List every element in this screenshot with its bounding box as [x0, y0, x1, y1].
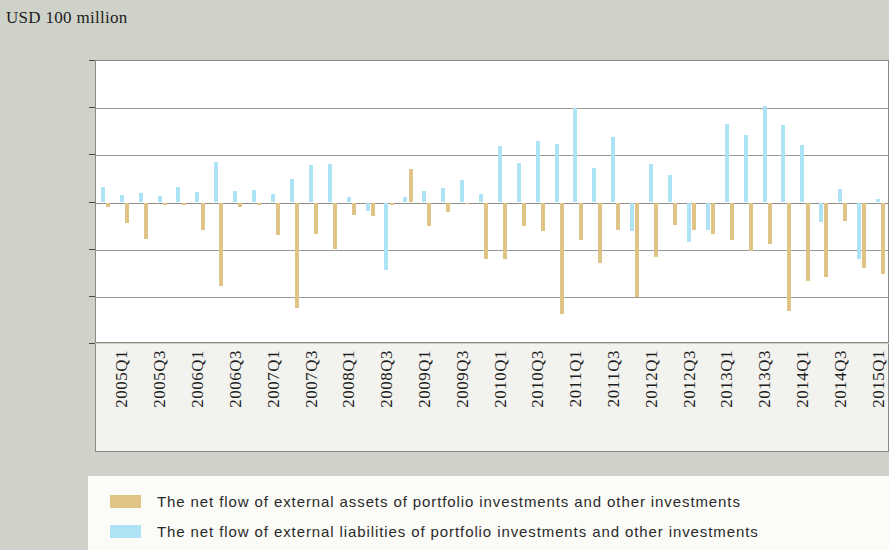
bar-assets-2009Q4	[465, 203, 469, 205]
bar-liabilities-2015Q2	[876, 199, 880, 203]
legend-item-assets: The net flow of external assets of portf…	[110, 486, 889, 516]
bar-assets-2005Q4	[163, 203, 167, 206]
x-tick-label: 2011Q3	[604, 350, 624, 407]
bar-liabilities-2005Q3	[139, 193, 143, 203]
bar-assets-2005Q2	[125, 203, 129, 224]
chart-figure: USD 100 million 1 5001 0005000−500−1 000…	[0, 0, 889, 550]
bar-assets-2010Q1	[484, 203, 488, 260]
bar-liabilities-2009Q1	[403, 197, 407, 203]
bar-liabilities-2015Q1	[857, 203, 861, 260]
bar-assets-2006Q1	[182, 203, 186, 205]
y-tick-mark	[89, 249, 95, 250]
bar-liabilities-2007Q1	[252, 190, 256, 203]
y-tick-mark	[89, 296, 95, 297]
y-tick-mark	[89, 154, 95, 155]
bar-liabilities-2009Q3	[441, 188, 445, 202]
bar-liabilities-2005Q4	[158, 196, 162, 203]
bar-liabilities-2006Q1	[176, 187, 180, 202]
bar-liabilities-2006Q3	[214, 162, 218, 203]
bar-liabilities-2008Q3	[366, 203, 370, 211]
bar-liabilities-2010Q2	[498, 146, 502, 202]
bar-assets-2010Q4	[541, 203, 545, 231]
bar-assets-2013Q1	[711, 203, 715, 234]
y-tick-mark	[89, 202, 95, 203]
x-tick-label: 2007Q3	[302, 350, 322, 408]
bar-assets-2009Q1	[409, 169, 413, 202]
x-tick-label: 2011Q1	[566, 350, 586, 407]
x-tick-label: 2015Q1	[869, 350, 889, 408]
bar-liabilities-2007Q3	[290, 179, 294, 203]
gridline	[96, 250, 888, 251]
bar-liabilities-2014Q2	[800, 145, 804, 202]
bar-liabilities-2009Q2	[422, 191, 426, 203]
x-tick-label: 2013Q1	[717, 350, 737, 408]
bar-liabilities-2007Q2	[271, 194, 275, 202]
bar-liabilities-2011Q4	[611, 137, 615, 202]
x-tick-label: 2005Q1	[112, 350, 132, 408]
bar-assets-2007Q3	[295, 203, 299, 309]
bar-assets-2009Q3	[446, 203, 450, 213]
bar-assets-2014Q1	[787, 203, 791, 311]
x-tick-label: 2008Q3	[377, 350, 397, 408]
bar-assets-2011Q4	[616, 203, 620, 231]
x-tick-label: 2005Q3	[150, 350, 170, 408]
bar-liabilities-2012Q1	[630, 203, 634, 231]
chart-legend: The net flow of external assets of portf…	[88, 476, 889, 550]
bar-liabilities-2010Q1	[479, 194, 483, 203]
bar-assets-2005Q1	[106, 203, 110, 207]
bar-assets-2013Q4	[768, 203, 772, 245]
plot-area	[95, 60, 889, 343]
bar-assets-2011Q2	[579, 203, 583, 240]
bar-liabilities-2014Q1	[781, 125, 785, 202]
x-tick-label: 2010Q1	[491, 350, 511, 408]
x-tick-label: 2006Q3	[226, 350, 246, 408]
bar-assets-2009Q2	[427, 203, 431, 227]
unit-caption: USD 100 million	[6, 8, 128, 28]
x-tick-label: 2006Q1	[188, 350, 208, 408]
bar-liabilities-2011Q3	[592, 168, 596, 203]
bar-assets-2013Q2	[730, 203, 734, 241]
bar-assets-2008Q3	[371, 203, 375, 216]
bar-liabilities-2009Q4	[460, 180, 464, 202]
bar-liabilities-2007Q4	[309, 165, 313, 203]
gridline	[96, 155, 888, 156]
bar-liabilities-2013Q3	[744, 135, 748, 202]
bar-assets-2013Q3	[749, 203, 753, 251]
bar-assets-2007Q1	[257, 203, 261, 206]
bar-liabilities-2005Q2	[120, 195, 124, 203]
bar-assets-2010Q3	[522, 203, 526, 227]
bar-liabilities-2008Q1	[328, 164, 332, 202]
x-tick-label: 2008Q1	[339, 350, 359, 408]
bar-liabilities-2013Q2	[725, 124, 729, 202]
bar-liabilities-2012Q3	[668, 175, 672, 202]
bar-assets-2007Q4	[314, 203, 318, 234]
bar-liabilities-2012Q2	[649, 164, 653, 203]
x-tick-label: 2013Q3	[755, 350, 775, 408]
bar-assets-2008Q2	[352, 203, 356, 215]
bar-assets-2012Q2	[654, 203, 658, 258]
x-tick-label: 2012Q1	[642, 350, 662, 408]
legend-label: The net flow of external liabilities of …	[157, 523, 759, 540]
bar-assets-2014Q4	[843, 203, 847, 222]
x-tick-label: 2014Q3	[831, 350, 851, 408]
bar-assets-2006Q2	[201, 203, 205, 231]
x-tick-label: 2009Q3	[453, 350, 473, 408]
bar-liabilities-2006Q4	[233, 191, 237, 202]
x-tick-label: 2007Q1	[264, 350, 284, 408]
bar-assets-2005Q3	[144, 203, 148, 240]
bar-liabilities-2014Q4	[838, 189, 842, 203]
bar-assets-2014Q2	[806, 203, 810, 281]
legend-swatch-liabilities	[110, 525, 141, 538]
bar-assets-2006Q3	[219, 203, 223, 286]
bar-liabilities-2012Q4	[687, 203, 691, 243]
bar-liabilities-2011Q1	[555, 144, 559, 203]
gridline	[96, 297, 888, 298]
bar-assets-2012Q4	[692, 203, 696, 230]
x-tick-label: 2014Q1	[793, 350, 813, 408]
bar-assets-2011Q3	[598, 203, 602, 263]
x-tick-label: 2009Q1	[415, 350, 435, 408]
x-tick-label: 2012Q3	[680, 350, 700, 408]
bar-liabilities-2008Q4	[384, 203, 388, 271]
bar-assets-2015Q2	[881, 203, 885, 275]
bar-liabilities-2014Q3	[819, 203, 823, 223]
